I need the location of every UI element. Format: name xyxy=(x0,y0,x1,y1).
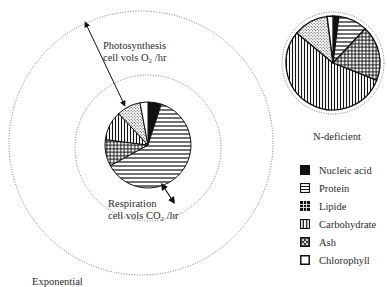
legend-item-chlorophyll: Chlorophyll xyxy=(300,253,370,267)
legend-item-carbohydrate: Carbohydrate xyxy=(300,217,376,231)
legend-label: Chlorophyll xyxy=(319,255,370,266)
horizontal-lines-swatch-icon xyxy=(300,183,310,193)
vertical-lines-swatch-icon xyxy=(300,219,310,229)
legend-item-lipide: Lipide xyxy=(300,199,346,213)
solid-black-swatch-icon xyxy=(300,165,310,175)
legend-item-nucleic-acid: Nucleic acid xyxy=(300,163,372,177)
photosynthesis-label: Photosynthesis cell vols O₂ /hr xyxy=(103,40,166,64)
respiration-label: Respiration cell vols CO₂ /hr xyxy=(108,198,178,222)
exponential-pie xyxy=(105,102,191,188)
white-swatch-icon xyxy=(300,255,310,265)
respiration-label-line1: Respiration xyxy=(108,198,178,210)
legend-label: Ash xyxy=(319,237,336,248)
respiration-label-line2: cell vols CO₂ /hr xyxy=(108,210,178,222)
legend-item-protein: Protein xyxy=(300,181,349,195)
legend-label: Lipide xyxy=(319,201,346,212)
stipple-swatch-icon xyxy=(300,237,310,247)
n-deficient-pie xyxy=(286,16,380,110)
legend-label: Carbohydrate xyxy=(319,219,376,230)
photosynthesis-label-line2: cell vols O₂ /hr xyxy=(103,52,166,64)
photosynthesis-arrow xyxy=(86,24,124,104)
legend-item-ash: Ash xyxy=(300,235,336,249)
photosynthesis-label-line1: Photosynthesis xyxy=(103,40,166,52)
legend-label: Protein xyxy=(319,183,349,194)
exponential-label: Exponential xyxy=(32,276,83,287)
n-deficient-label: N-deficient xyxy=(313,131,361,143)
crosshatch-swatch-icon xyxy=(300,201,310,211)
legend-label: Nucleic acid xyxy=(319,165,372,176)
